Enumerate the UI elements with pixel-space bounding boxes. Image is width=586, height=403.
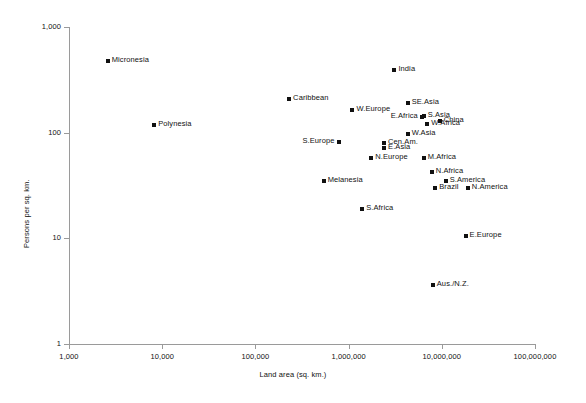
data-point-marker [382, 141, 386, 145]
y-axis-title: Persons per sq. km. [22, 179, 31, 248]
data-point-marker [425, 122, 429, 126]
data-point-marker [406, 101, 410, 105]
data-point-marker [369, 156, 373, 160]
x-tick [349, 344, 350, 349]
data-point-label: SE.Asia [412, 98, 439, 106]
y-tick [64, 27, 69, 28]
data-point-label: S.Europe [0, 137, 335, 145]
data-point-marker [360, 207, 364, 211]
y-tick-label: 100 [48, 128, 61, 137]
data-point-label: M.Africa [428, 153, 456, 161]
y-tick-label: 10 [52, 233, 61, 242]
data-point-marker [350, 108, 354, 112]
data-point-label: Aus./N.Z. [437, 280, 469, 288]
data-point-marker [337, 140, 341, 144]
data-point-marker [422, 114, 426, 118]
x-tick [535, 344, 536, 349]
scatter-plot: Persons per sq. km. Land area (sq. km.) … [0, 0, 586, 403]
y-axis-line [69, 27, 70, 345]
data-point-marker [382, 146, 386, 150]
data-point-label: E.Africa [0, 112, 418, 120]
data-point-marker [322, 179, 326, 183]
y-tick-label: 1 [57, 339, 61, 348]
data-point-label: N.Europe [375, 153, 408, 161]
y-tick-label: 1,000 [42, 22, 61, 31]
data-point-label: Caribbean [293, 94, 329, 102]
y-tick [64, 238, 69, 239]
data-point-marker [430, 170, 434, 174]
data-point-label: W.Africa [431, 119, 460, 127]
y-tick [64, 133, 69, 134]
data-point-label: S.Africa [366, 204, 393, 212]
data-point-label: W.Asia [412, 129, 436, 137]
x-tick-label: 1,000,000 [299, 352, 399, 361]
x-tick [442, 344, 443, 349]
data-point-label: India [398, 65, 415, 73]
x-tick [162, 344, 163, 349]
data-point-marker [466, 186, 470, 190]
data-point-marker [106, 59, 110, 63]
x-axis-title: Land area (sq. km.) [0, 370, 586, 379]
x-tick-label: 10,000,000 [392, 352, 492, 361]
data-point-label: Micronesia [112, 56, 149, 64]
data-point-marker [406, 132, 410, 136]
data-point-label: E.Europe [470, 231, 502, 239]
data-point-marker [431, 283, 435, 287]
x-tick-label: 100,000,000 [485, 352, 585, 361]
x-tick-label: 10,000 [112, 352, 212, 361]
data-point-marker [287, 97, 291, 101]
x-tick [255, 344, 256, 349]
data-point-marker [433, 186, 437, 190]
x-axis-line [69, 344, 536, 345]
data-point-label: N.America [472, 183, 508, 191]
data-point-marker [152, 123, 156, 127]
data-point-label: Melanesia [328, 176, 363, 184]
x-tick-label: 1,000 [19, 352, 119, 361]
data-point-label: E.Asia [388, 143, 410, 151]
data-point-marker [464, 234, 468, 238]
x-tick [69, 344, 70, 349]
data-point-label: Polynesia [158, 120, 191, 128]
data-point-marker [392, 68, 396, 72]
x-tick-label: 100,000 [205, 352, 305, 361]
data-point-label: Brazil [439, 183, 458, 191]
data-point-marker [422, 156, 426, 160]
